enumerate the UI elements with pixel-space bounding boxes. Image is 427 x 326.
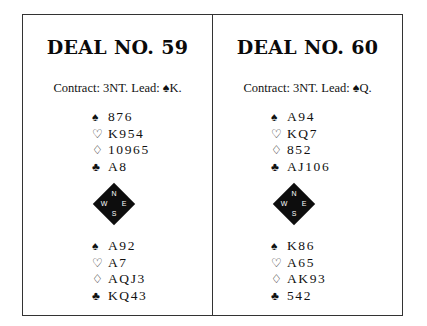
compass-icon: N W E S [92, 182, 136, 226]
north-hand: ♠ 876 ♡ K954 ♢ 10965 ♣ A8 [92, 109, 150, 175]
compass-south: S [109, 210, 119, 218]
hand-row-spades: ♠ K86 [271, 238, 326, 255]
heart-icon: ♡ [271, 126, 287, 143]
hand-row-hearts: ♡ A7 [92, 255, 147, 272]
compass-west: W [279, 200, 289, 208]
compass-south: S [289, 210, 299, 218]
deal-title: DEAL NO. 59 [23, 36, 212, 58]
compass-east: E [119, 200, 129, 208]
spade-icon: ♠ [92, 109, 108, 126]
deals-frame: DEAL NO. 59 Contract: 3NT. Lead: ♠K. ♠ 8… [22, 14, 403, 316]
cards-clubs: KQ43 [108, 288, 147, 305]
diamond-icon: ♢ [92, 271, 108, 288]
contract-lead: Contract: 3NT. Lead: ♠K. [23, 81, 212, 96]
cards-clubs: 542 [287, 288, 312, 305]
hand-row-diamonds: ♢ 10965 [92, 142, 150, 159]
deal-title: DEAL NO. 60 [213, 36, 402, 58]
cards-clubs: AJ106 [287, 159, 330, 176]
hand-row-hearts: ♡ KQ7 [271, 126, 330, 143]
hand-row-hearts: ♡ K954 [92, 126, 150, 143]
club-icon: ♣ [271, 288, 287, 305]
diamond-icon: ♢ [92, 142, 108, 159]
contract-lead: Contract: 3NT. Lead: ♠Q. [213, 81, 402, 96]
cards-spades: 876 [108, 109, 133, 126]
heart-icon: ♡ [271, 255, 287, 272]
compass-east: E [299, 200, 309, 208]
cards-diamonds: 10965 [108, 142, 150, 159]
hand-row-spades: ♠ A92 [92, 238, 147, 255]
north-hand: ♠ A94 ♡ KQ7 ♢ 852 ♣ AJ106 [271, 109, 330, 175]
cards-clubs: A8 [108, 159, 128, 176]
spade-icon: ♠ [92, 238, 108, 255]
hand-row-clubs: ♣ AJ106 [271, 159, 330, 176]
cards-diamonds: AK93 [287, 271, 326, 288]
cards-hearts: A7 [108, 255, 128, 272]
hand-row-diamonds: ♢ AK93 [271, 271, 326, 288]
hand-row-diamonds: ♢ 852 [271, 142, 330, 159]
hand-row-spades: ♠ 876 [92, 109, 150, 126]
south-hand: ♠ A92 ♡ A7 ♢ AQJ3 ♣ KQ43 [92, 238, 147, 304]
hand-row-diamonds: ♢ AQJ3 [92, 271, 147, 288]
compass-west: W [99, 200, 109, 208]
cards-spades: A92 [108, 238, 136, 255]
hand-row-hearts: ♡ A65 [271, 255, 326, 272]
diamond-icon: ♢ [271, 271, 287, 288]
cards-diamonds: 852 [287, 142, 312, 159]
compass-icon: N W E S [272, 182, 316, 226]
hand-row-clubs: ♣ 542 [271, 288, 326, 305]
cards-hearts: K954 [108, 126, 144, 143]
heart-icon: ♡ [92, 255, 108, 272]
south-hand: ♠ K86 ♡ A65 ♢ AK93 ♣ 542 [271, 238, 326, 304]
compass-north: N [289, 190, 299, 198]
spade-icon: ♠ [271, 238, 287, 255]
deal-panel-59: DEAL NO. 59 Contract: 3NT. Lead: ♠K. ♠ 8… [23, 15, 213, 315]
hand-row-clubs: ♣ KQ43 [92, 288, 147, 305]
club-icon: ♣ [92, 159, 108, 176]
heart-icon: ♡ [92, 126, 108, 143]
club-icon: ♣ [271, 159, 287, 176]
cards-hearts: KQ7 [287, 126, 318, 143]
deal-panel-60: DEAL NO. 60 Contract: 3NT. Lead: ♠Q. ♠ A… [213, 15, 402, 315]
diamond-icon: ♢ [271, 142, 287, 159]
cards-spades: A94 [287, 109, 315, 126]
club-icon: ♣ [92, 288, 108, 305]
compass-north: N [109, 190, 119, 198]
hand-row-clubs: ♣ A8 [92, 159, 150, 176]
hand-row-spades: ♠ A94 [271, 109, 330, 126]
cards-spades: K86 [287, 238, 315, 255]
cards-hearts: A65 [287, 255, 315, 272]
cards-diamonds: AQJ3 [108, 271, 146, 288]
spade-icon: ♠ [271, 109, 287, 126]
